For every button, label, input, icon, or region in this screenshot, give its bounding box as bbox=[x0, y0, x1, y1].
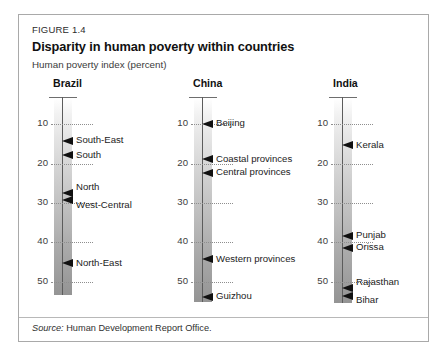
axis-tick-label-india-10: 10 bbox=[317, 118, 328, 128]
axis-tick-label-china-30: 30 bbox=[177, 197, 188, 207]
arrow-left-icon bbox=[342, 292, 353, 300]
arrow-left-icon bbox=[202, 255, 213, 263]
panel-title-brazil: Brazil bbox=[53, 77, 82, 89]
axis-tick-label-brazil-50: 50 bbox=[37, 276, 48, 286]
axis-tick-label-brazil-40: 40 bbox=[37, 236, 48, 246]
panel-title-china: China bbox=[193, 77, 222, 89]
axis-tick-label-china-20: 20 bbox=[177, 158, 188, 168]
axis-tick-india-20: 20 bbox=[331, 164, 373, 165]
marker-label: Kerala bbox=[356, 140, 384, 150]
arrow-left-icon bbox=[342, 232, 353, 240]
marker-label: West-Central bbox=[76, 200, 132, 210]
marker-label: Western provinces bbox=[216, 254, 295, 264]
gradient-bar-china bbox=[194, 98, 212, 302]
axis-tick-india-30: 30 bbox=[331, 203, 373, 204]
source-text: Human Development Report Office. bbox=[66, 323, 211, 333]
axis-tick-india-10: 10 bbox=[331, 124, 373, 125]
axis-tick-brazil-40: 40 bbox=[51, 242, 93, 243]
figure-title: Disparity in human poverty within countr… bbox=[32, 39, 294, 54]
axis-tick-china-30: 30 bbox=[191, 203, 233, 204]
axis-tick-label-india-40: 40 bbox=[317, 236, 328, 246]
axis-tick-brazil-10: 10 bbox=[51, 124, 93, 125]
axis-tick-label-brazil-20: 20 bbox=[37, 158, 48, 168]
source-note: Source: Human Development Report Office. bbox=[32, 323, 212, 333]
axis-tick-label-china-50: 50 bbox=[177, 276, 188, 286]
panel-china: China 1020304050 BeijingCoastal province… bbox=[171, 77, 309, 317]
axis-tick-china-50: 50 bbox=[191, 282, 233, 283]
arrow-left-icon bbox=[202, 120, 213, 128]
figure-subtitle: Human poverty index (percent) bbox=[32, 59, 167, 70]
arrow-left-icon bbox=[62, 137, 73, 145]
figure-number: FIGURE 1.4 bbox=[32, 24, 86, 35]
axis-tick-label-china-10: 10 bbox=[177, 118, 188, 128]
panel-title-india: India bbox=[333, 77, 358, 89]
arrow-left-icon bbox=[342, 284, 353, 292]
arrow-left-icon bbox=[342, 244, 353, 252]
arrow-left-icon bbox=[342, 141, 353, 149]
arrow-left-icon bbox=[62, 196, 73, 204]
marker-label: Beijing bbox=[216, 118, 245, 128]
arrow-left-icon bbox=[62, 189, 73, 197]
axis-tick-china-40: 40 bbox=[191, 242, 233, 243]
axis-line-india bbox=[342, 97, 343, 303]
panel-india: India 1020304050 KeralaPunjabOrissaRajas… bbox=[311, 77, 429, 317]
marker-label: Coastal provinces bbox=[216, 154, 292, 164]
axis-tick-china-20: 20 bbox=[191, 164, 233, 165]
arrow-left-icon bbox=[202, 155, 213, 163]
marker-label: Guizhou bbox=[216, 291, 252, 301]
marker-label: North bbox=[76, 182, 99, 192]
marker-label: South bbox=[76, 150, 101, 160]
marker-label: North-East bbox=[76, 258, 122, 268]
marker-label: Punjab bbox=[356, 230, 386, 240]
figure-container: FIGURE 1.4 Disparity in human poverty wi… bbox=[18, 14, 429, 342]
arrow-left-icon bbox=[202, 293, 213, 301]
axis-tick-brazil-50: 50 bbox=[51, 282, 93, 283]
axis-tick-label-brazil-30: 30 bbox=[37, 197, 48, 207]
marker-label: South-East bbox=[76, 135, 123, 145]
panel-brazil: Brazil 1020304050 South-EastSouthNorthWe… bbox=[31, 77, 169, 317]
marker-label: Bihar bbox=[356, 295, 378, 305]
marker-label: Central provinces bbox=[216, 167, 291, 177]
arrow-left-icon bbox=[62, 151, 73, 159]
axis-tick-label-china-40: 40 bbox=[177, 236, 188, 246]
source-prefix: Source: bbox=[32, 323, 64, 333]
axis-tick-label-brazil-10: 10 bbox=[37, 118, 48, 128]
axis-tick-label-india-20: 20 bbox=[317, 158, 328, 168]
gradient-bar-india bbox=[334, 98, 352, 303]
arrow-left-icon bbox=[202, 169, 213, 177]
arrow-left-icon bbox=[62, 259, 73, 267]
footer-divider bbox=[19, 317, 428, 318]
axis-tick-brazil-20: 20 bbox=[51, 164, 93, 165]
marker-label: Orissa bbox=[356, 242, 384, 252]
axis-tick-label-india-30: 30 bbox=[317, 197, 328, 207]
marker-label: Rajasthan bbox=[356, 277, 399, 287]
axis-tick-label-india-50: 50 bbox=[317, 276, 328, 286]
